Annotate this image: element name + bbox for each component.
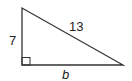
right-angle-marker bbox=[22, 58, 30, 66]
right-triangle bbox=[22, 8, 123, 65]
vertical-leg-label: 7 bbox=[9, 33, 16, 48]
triangle-diagram: 7 13 b bbox=[0, 0, 132, 81]
hypotenuse-label: 13 bbox=[69, 19, 83, 34]
horizontal-leg-label: b bbox=[62, 67, 69, 81]
